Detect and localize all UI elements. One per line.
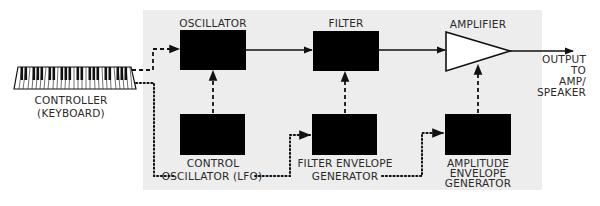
lfo-label-line1: CONTROL: [187, 157, 240, 169]
controller-label-line2: (KEYBOARD): [37, 107, 105, 119]
filter-block: [313, 31, 379, 71]
filter-env-label-line2: GENERATOR: [312, 170, 378, 182]
oscillator-block: [180, 30, 246, 70]
output-label-line4: SPEAKER: [537, 86, 586, 98]
filter-label: FILTER: [328, 17, 363, 29]
amp-env-block: [445, 114, 511, 155]
amplifier-label: AMPLIFIER: [450, 18, 506, 30]
lfo-label-line2: OSCILLATOR (LFO): [162, 170, 263, 182]
oscillator-label: OSCILLATOR: [179, 17, 247, 29]
controller-label-line1: CONTROLLER: [34, 94, 107, 106]
synth-signal-flow-diagram: CONTROLLER (KEYBOARD) OSCILLATOR FILTER …: [0, 0, 600, 206]
keyboard-icon: [14, 67, 136, 89]
filter-env-label-line1: FILTER ENVELOPE: [297, 157, 392, 169]
lfo-block: [180, 114, 245, 155]
amp-env-label-line3: GENERATOR: [445, 177, 511, 189]
filter-env-block: [312, 114, 377, 155]
